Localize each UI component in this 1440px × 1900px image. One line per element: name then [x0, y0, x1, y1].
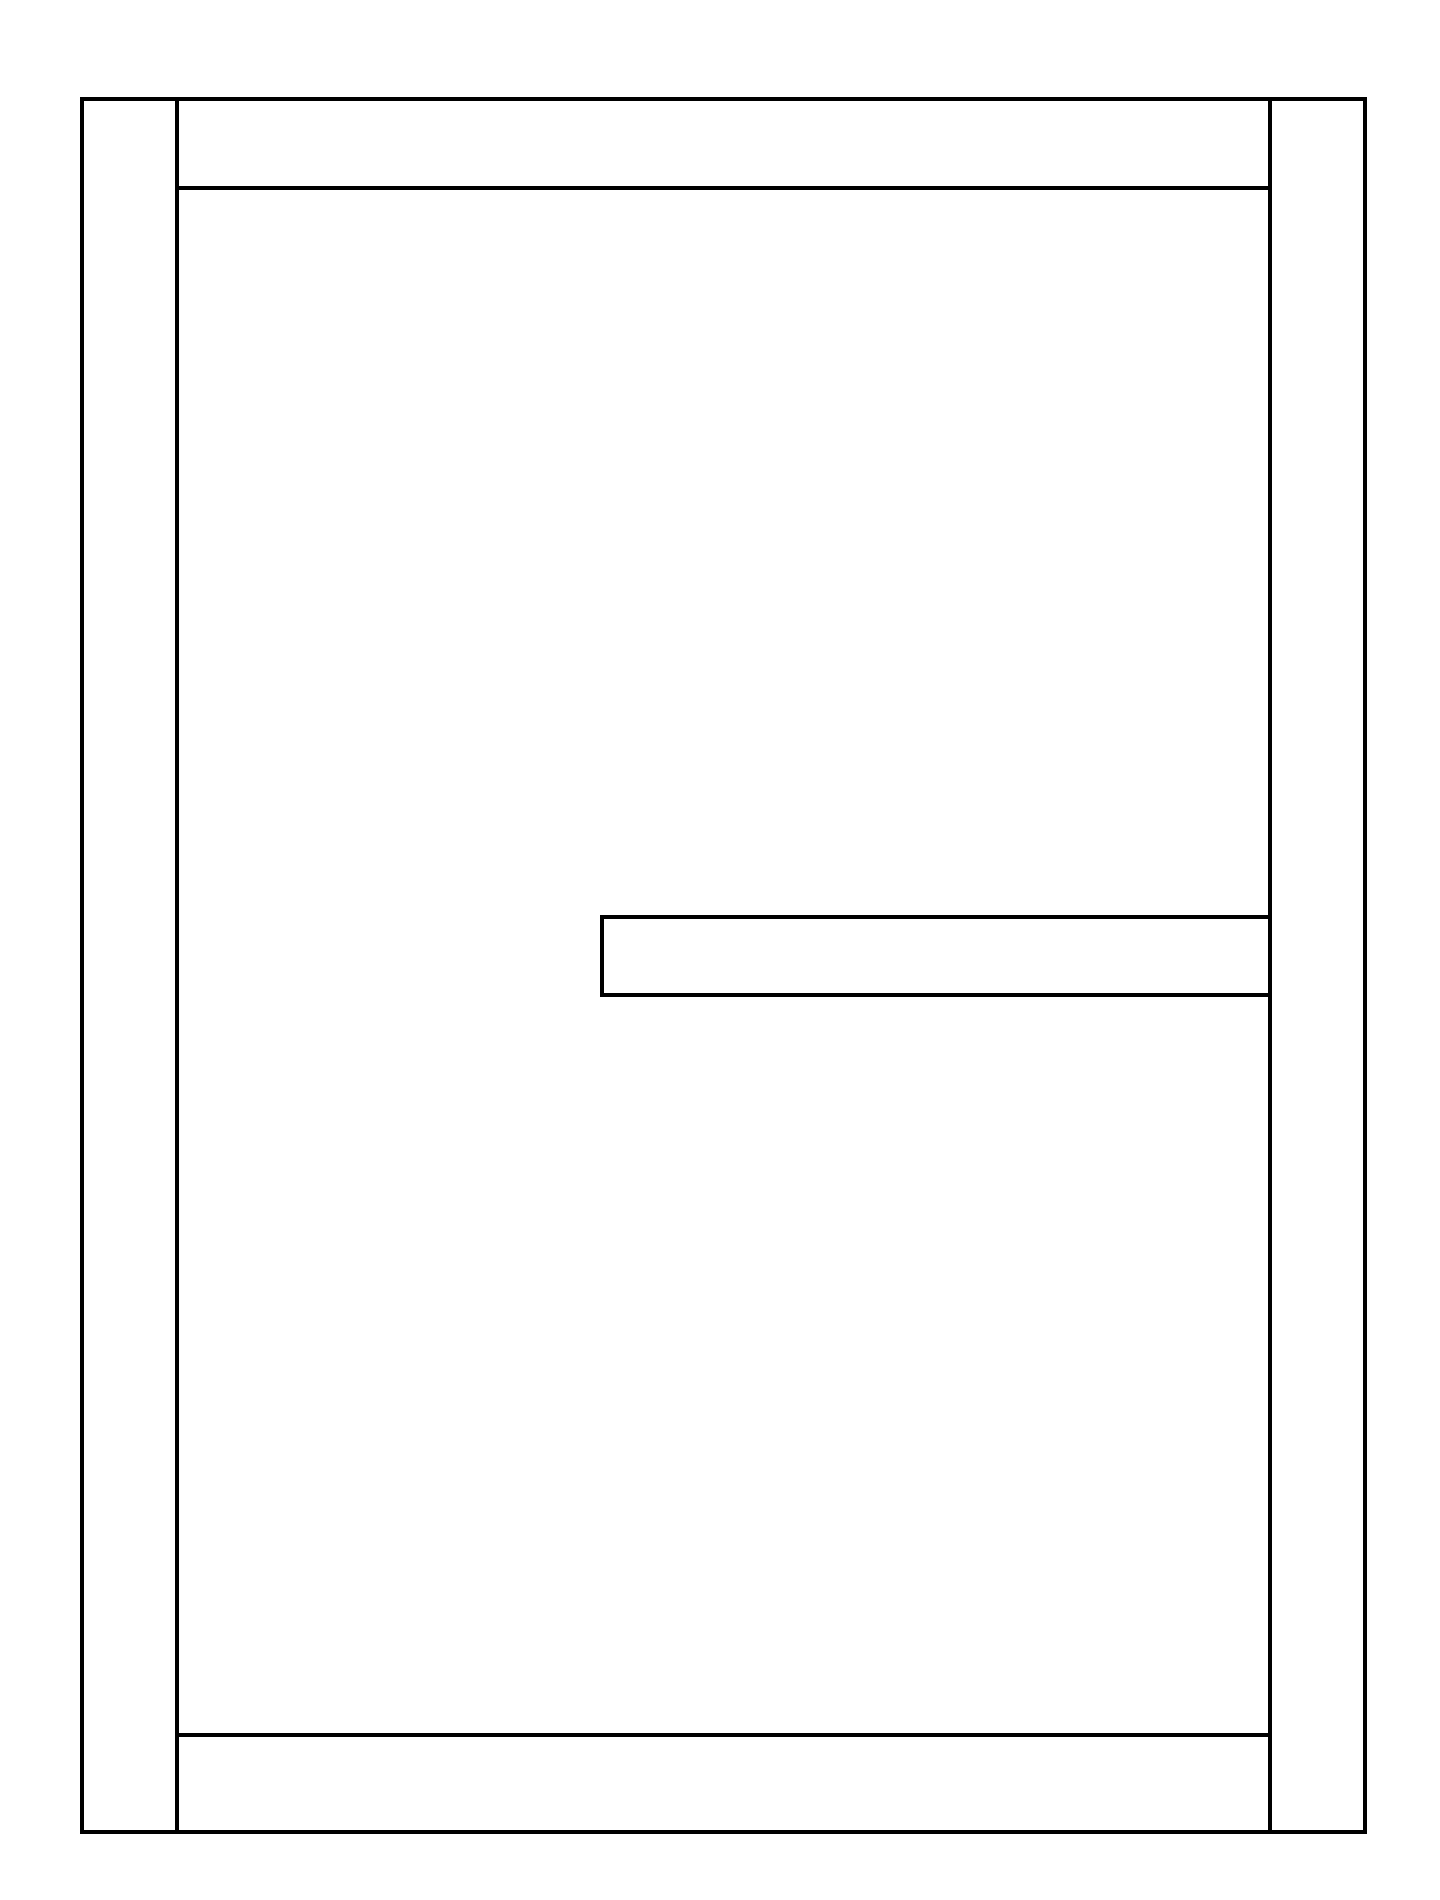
- footer-band-divider: [175, 1733, 1270, 1737]
- left-column-divider: [175, 97, 179, 1834]
- header-band-divider: [177, 186, 1270, 190]
- middle-bar: [600, 915, 1272, 997]
